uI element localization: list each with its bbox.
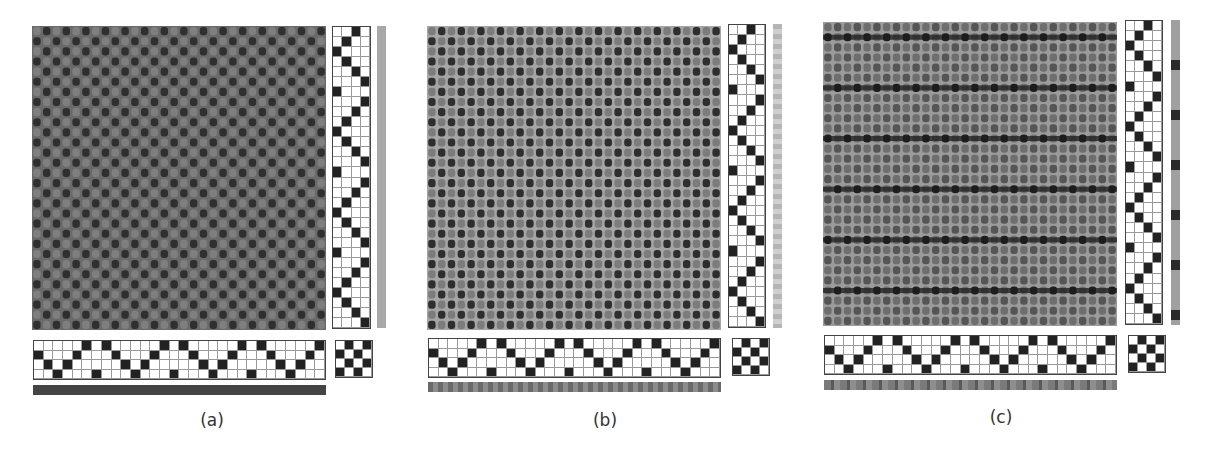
draft-cell [218, 360, 228, 370]
draft-cell [1135, 284, 1144, 294]
draft-cell [825, 336, 835, 346]
draft-cell [1126, 233, 1135, 243]
draft-cell [352, 77, 361, 87]
draft-cell [1153, 263, 1162, 273]
draft-cell [342, 87, 351, 97]
draft-cell [738, 186, 747, 196]
draft-cell [1067, 355, 1077, 365]
draft-cell [448, 349, 458, 359]
draft-cell [756, 186, 765, 196]
draft-cell [1019, 365, 1029, 375]
draft-cell [1000, 355, 1010, 365]
draft-cell [296, 341, 306, 351]
treadling-grid [1125, 20, 1163, 325]
draft-cell [342, 258, 351, 268]
draft-cell [333, 278, 342, 288]
draft-cell [1029, 346, 1039, 356]
panel-b: (b) [427, 0, 827, 458]
draft-cell [1126, 31, 1135, 41]
threading-grid [428, 338, 721, 378]
draft-cell [1077, 336, 1087, 346]
draft-cell [756, 75, 765, 85]
draft-cell [951, 346, 961, 356]
draft-cell [738, 75, 747, 85]
draft-cell [112, 341, 122, 351]
draft-cell [44, 351, 54, 361]
draft-cell [1138, 336, 1147, 345]
draft-cell [1058, 355, 1068, 365]
draft-cell [756, 166, 765, 176]
draft-cell [747, 246, 756, 256]
draft-cell [257, 360, 267, 370]
draft-cell [361, 57, 370, 67]
draft-cell [1144, 152, 1153, 162]
draft-cell [1153, 173, 1162, 183]
draft-cell [633, 358, 643, 368]
threading-grid [824, 335, 1117, 375]
draft-cell [1126, 284, 1135, 294]
draft-cell [34, 341, 44, 351]
draft-cell [1126, 274, 1135, 284]
draft-cell [594, 368, 604, 378]
draft-cell [1135, 233, 1144, 243]
draft-cell [1126, 21, 1135, 31]
draft-cell [1138, 345, 1147, 354]
draft-cell [361, 238, 370, 248]
draft-cell [883, 355, 893, 365]
draft-cell [642, 368, 652, 378]
draft-cell [1077, 365, 1087, 375]
draft-cell [333, 77, 342, 87]
draft-cell [121, 370, 131, 380]
draft-cell [189, 370, 199, 380]
draft-cell [1097, 346, 1107, 356]
draft-cell [342, 228, 351, 238]
draft-cell [1153, 304, 1162, 314]
draft-cell [507, 368, 517, 378]
draft-cell [1153, 314, 1162, 324]
draft-cell [545, 349, 555, 359]
draft-cell [545, 358, 555, 368]
draft-cell [352, 308, 361, 318]
draft-cell [477, 339, 487, 349]
draft-cell [1135, 223, 1144, 233]
draft-cell [102, 360, 112, 370]
weft-color-bar [377, 26, 386, 328]
draft-cell [747, 126, 756, 136]
draft-cell [1147, 345, 1156, 354]
draft-cell [1144, 263, 1153, 273]
draft-cell [738, 35, 747, 45]
draft-cell [633, 349, 643, 359]
draft-cell [361, 188, 370, 198]
draft-cell [756, 116, 765, 126]
draft-cell [922, 355, 932, 365]
draft-cell [336, 359, 345, 368]
draft-cell [34, 370, 44, 380]
draft-cell [1009, 346, 1019, 356]
draft-cell [1126, 82, 1135, 92]
draft-cell [1126, 92, 1135, 102]
draft-cell [286, 351, 296, 361]
draft-cell [565, 368, 575, 378]
draft-cell [276, 360, 286, 370]
draft-cell [729, 317, 738, 327]
draft-cell [218, 351, 228, 361]
draft-cell [835, 365, 845, 375]
draft-cell [1144, 183, 1153, 193]
draft-cell [44, 360, 54, 370]
draft-cell [951, 365, 961, 375]
draft-cell [209, 351, 219, 361]
draft-cell [1144, 122, 1153, 132]
draft-cell [951, 355, 961, 365]
draft-cell [468, 358, 478, 368]
draft-cell [1147, 363, 1156, 372]
draft-cell [342, 198, 351, 208]
draft-cell [1135, 51, 1144, 61]
draft-cell [1000, 336, 1010, 346]
draft-cell [756, 146, 765, 156]
tieup-grid [732, 338, 770, 376]
draft-cell [729, 116, 738, 126]
draft-cell [604, 368, 614, 378]
draft-cell [315, 360, 325, 370]
draft-cell [1135, 21, 1144, 31]
draft-cell [738, 116, 747, 126]
